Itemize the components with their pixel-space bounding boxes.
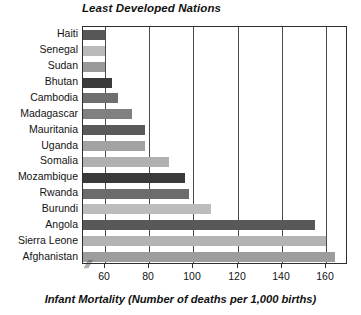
y-label-sierra-leone: Sierra Leone (0, 234, 78, 246)
bars-layer (83, 27, 346, 263)
bar-mauritania (83, 125, 145, 135)
plot-area (82, 26, 347, 264)
x-tick-mark-80 (148, 264, 149, 268)
y-label-senegal: Senegal (0, 43, 78, 55)
bar-row (83, 236, 346, 246)
bar-row (83, 109, 346, 119)
x-tick-mark-160 (325, 264, 326, 268)
y-label-mauritania: Mauritania (0, 123, 78, 135)
chart-title: Least Developed Nations (82, 2, 347, 14)
bar-row (83, 78, 346, 88)
bar-row (83, 30, 346, 40)
x-axis-ticks: 6080100120140160 (82, 264, 347, 284)
y-axis-category-labels: HaitiSenegalSudanBhutanCambodiaMadagasca… (0, 26, 78, 264)
bar-row (83, 141, 346, 151)
bar-burundi (83, 204, 211, 214)
x-tick-label-120: 120 (228, 270, 246, 282)
bar-row (83, 157, 346, 167)
bar-row (83, 220, 346, 230)
bar-row (83, 46, 346, 56)
bar-row (83, 204, 346, 214)
bar-madagascar (83, 109, 132, 119)
y-label-madagascar: Madagascar (0, 107, 78, 119)
x-tick-label-160: 160 (316, 270, 334, 282)
x-tick-mark-140 (281, 264, 282, 268)
bar-row (83, 125, 346, 135)
bar-row (83, 62, 346, 72)
x-tick-mark-100 (192, 264, 193, 268)
bar-senegal (83, 46, 105, 56)
x-tick-label-80: 80 (142, 270, 154, 282)
bar-row (83, 252, 346, 262)
y-label-afghanistan: Afghanistan (0, 250, 78, 262)
bar-cambodia (83, 93, 118, 103)
x-tick-mark-60 (104, 264, 105, 268)
x-axis-title: Infant Mortality (Number of deaths per 1… (0, 293, 361, 305)
y-label-burundi: Burundi (0, 202, 78, 214)
bar-rwanda (83, 189, 189, 199)
bar-mozambique (83, 173, 185, 183)
bar-row (83, 189, 346, 199)
y-label-angola: Angola (0, 218, 78, 230)
y-label-bhutan: Bhutan (0, 75, 78, 87)
bar-sudan (83, 62, 105, 72)
bar-uganda (83, 141, 145, 151)
y-label-uganda: Uganda (0, 139, 78, 151)
y-label-cambodia: Cambodia (0, 91, 78, 103)
bar-sierra-leone (83, 236, 326, 246)
y-label-rwanda: Rwanda (0, 186, 78, 198)
bar-haiti (83, 30, 105, 40)
y-label-haiti: Haiti (0, 27, 78, 39)
bar-row (83, 93, 346, 103)
x-tick-label-60: 60 (98, 270, 110, 282)
x-tick-mark-120 (237, 264, 238, 268)
axis-break-icon: ⫻ (84, 258, 98, 270)
x-tick-label-140: 140 (272, 270, 290, 282)
bar-angola (83, 220, 315, 230)
y-label-mozambique: Mozambique (0, 170, 78, 182)
x-tick-label-100: 100 (183, 270, 201, 282)
y-label-somalia: Somalia (0, 154, 78, 166)
bar-afghanistan (83, 252, 335, 262)
infant-mortality-bar-chart: Least Developed Nations HaitiSenegalSuda… (0, 0, 361, 315)
bar-row (83, 173, 346, 183)
bar-bhutan (83, 78, 112, 88)
bar-somalia (83, 157, 169, 167)
y-label-sudan: Sudan (0, 59, 78, 71)
